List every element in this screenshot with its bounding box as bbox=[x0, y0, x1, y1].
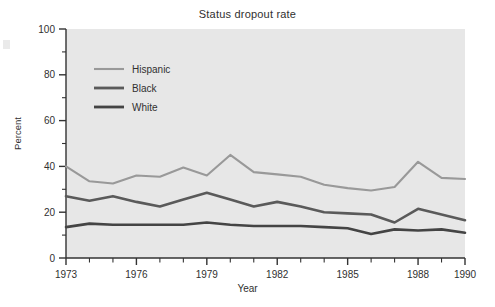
legend-label-black: Black bbox=[132, 83, 157, 94]
y-tick-label: 0 bbox=[49, 253, 55, 264]
chart-figure: Status dropout rate Percent Year 1008060… bbox=[0, 0, 495, 307]
y-tick-label: 100 bbox=[38, 24, 55, 35]
x-axis-ticks bbox=[66, 258, 465, 265]
plot-area: 100806040200 197319761979198219851988199… bbox=[0, 0, 495, 307]
y-axis-ticks bbox=[59, 29, 66, 258]
x-tick-label: 1973 bbox=[55, 269, 78, 280]
legend-label-hispanic: Hispanic bbox=[132, 64, 170, 75]
x-tick-label: 1990 bbox=[454, 269, 477, 280]
x-tick-label: 1982 bbox=[266, 269, 289, 280]
x-tick-label: 1988 bbox=[407, 269, 430, 280]
x-tick-labels: 1973197619791982198519881990 bbox=[55, 269, 477, 280]
legend-label-white: White bbox=[132, 102, 158, 113]
x-tick-label: 1976 bbox=[125, 269, 148, 280]
y-tick-label: 20 bbox=[44, 207, 56, 218]
y-tick-label: 60 bbox=[44, 115, 56, 126]
y-tick-label: 40 bbox=[44, 161, 56, 172]
y-tick-labels: 100806040200 bbox=[38, 24, 55, 264]
y-tick-label: 80 bbox=[44, 69, 56, 80]
x-tick-label: 1985 bbox=[337, 269, 360, 280]
x-tick-label: 1979 bbox=[196, 269, 219, 280]
